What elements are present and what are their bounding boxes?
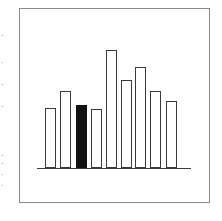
bar: [150, 91, 161, 168]
scan-artifact: [2, 163, 3, 164]
scan-artifact: [2, 155, 3, 156]
chart-figure: [0, 0, 222, 221]
bar: [91, 109, 102, 168]
scan-artifact: [2, 84, 3, 85]
bar: [135, 67, 146, 168]
bar: [60, 91, 71, 168]
bar-highlighted: [76, 105, 87, 168]
scan-artifact: [2, 185, 3, 186]
plot-area: [0, 0, 222, 221]
scan-artifact: [2, 35, 3, 36]
bar: [166, 101, 177, 168]
scan-artifact: [2, 62, 3, 63]
x-axis-baseline: [37, 168, 191, 169]
bar: [121, 80, 132, 168]
bar: [45, 108, 56, 168]
bar: [106, 50, 117, 168]
scan-artifact: [2, 174, 3, 175]
scan-artifact: [2, 106, 3, 107]
